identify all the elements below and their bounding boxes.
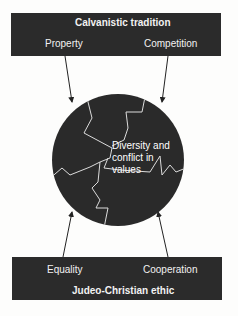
equality-label: Equality bbox=[47, 264, 83, 275]
center-line-2: conflict in bbox=[112, 152, 170, 164]
center-line-1: Diversity and bbox=[112, 140, 170, 152]
cooperation-label: Cooperation bbox=[143, 264, 197, 275]
bottom-title: Judeo-Christian ethic bbox=[72, 285, 174, 296]
center-line-3: values bbox=[112, 164, 170, 176]
center-label: Diversity and conflict in values bbox=[112, 140, 170, 176]
judeo-christian-ethic-box: Equality Cooperation Judeo-Christian eth… bbox=[12, 257, 222, 300]
